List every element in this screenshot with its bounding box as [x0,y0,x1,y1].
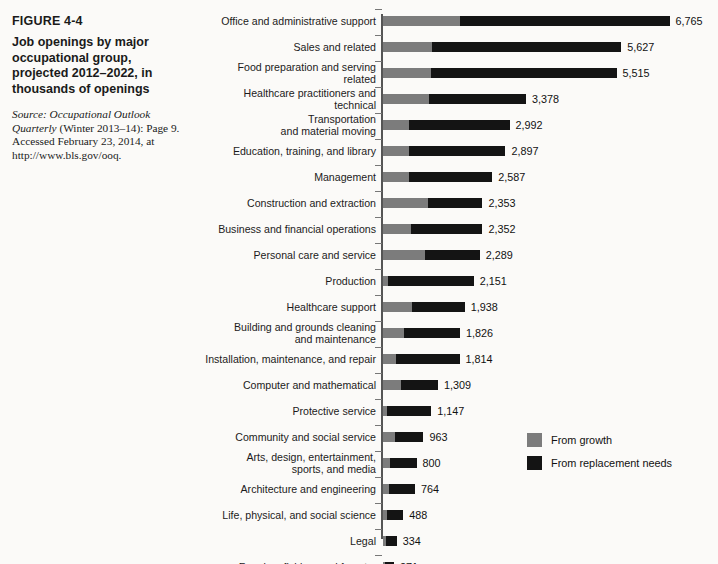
bar-segment-replacement[interactable] [431,68,617,78]
stacked-bar[interactable]: 2,289 [383,250,513,260]
bar-segment-replacement[interactable] [395,432,423,442]
stacked-bar[interactable]: 2,897 [383,146,539,156]
category-label-line: Legal [190,535,376,547]
bar-value-label: 5,627 [627,42,654,52]
chart-row: Construction and extraction2,353 [186,190,710,216]
bar-segment-growth[interactable] [383,172,409,182]
bar-segment-growth[interactable] [383,146,409,156]
bar-segment-growth[interactable] [383,354,397,364]
bar-segment-growth[interactable] [383,16,460,26]
chart-row: Architecture and engineering764 [186,476,710,502]
stacked-bar[interactable]: 2,992 [383,120,543,130]
chart-row: Business and financial operations2,352 [186,216,710,242]
axis-tick [375,113,382,114]
bar-value-label: 2,289 [486,250,513,260]
bar-segment-replacement[interactable] [390,458,417,468]
bar-segment-replacement[interactable] [387,406,431,416]
bar-segment-growth[interactable] [383,458,390,468]
bar-segment-replacement[interactable] [409,172,493,182]
stacked-bar[interactable]: 6,765 [383,16,703,26]
bar-segment-replacement[interactable] [411,224,482,234]
category-label: Life, physical, and social science [190,509,376,521]
bar-value-label: 2,352 [488,224,515,234]
bar-segment-growth[interactable] [383,432,396,442]
figure-title: Job openings by major occupational group… [12,35,180,97]
category-label: Installation, maintenance, and repair [190,353,376,365]
bar-segment-replacement[interactable] [460,16,670,26]
category-label-line: sports, and media [190,463,376,475]
legend-label-replacement: From replacement needs [551,457,672,469]
chart-row: Healthcare practitioners andtechnical3,3… [186,86,710,112]
bar-value-label: 2,992 [516,120,543,130]
figure-number: FIGURE 4-4 [12,14,180,28]
stacked-bar[interactable]: 3,378 [383,94,559,104]
axis-tick [375,9,382,10]
bar-segment-growth[interactable] [383,42,432,52]
stacked-bar[interactable]: 5,627 [383,42,655,52]
bar-segment-growth[interactable] [383,120,410,130]
bar-segment-replacement[interactable] [401,380,439,390]
stacked-bar[interactable]: 334 [383,536,421,546]
bar-segment-growth[interactable] [383,484,390,494]
bar-segment-growth[interactable] [383,68,431,78]
axis-tick [375,87,382,88]
bar-segment-replacement[interactable] [428,198,483,208]
stacked-bar[interactable]: 963 [383,432,448,442]
bar-segment-growth[interactable] [383,302,412,312]
bar-segment-replacement[interactable] [387,510,403,520]
stacked-bar[interactable]: 1,147 [383,406,465,416]
category-label: Protective service [190,405,376,417]
stacked-bar[interactable]: 800 [383,458,441,468]
stacked-bar[interactable]: 1,814 [383,354,493,364]
chart-row: Education, training, and library2,897 [186,138,710,164]
bar-segment-growth[interactable] [383,198,428,208]
category-label: Community and social service [190,431,376,443]
bar-segment-growth[interactable] [383,224,412,234]
bar-segment-replacement[interactable] [396,354,459,364]
bar-segment-replacement[interactable] [386,536,397,546]
bar-segment-growth[interactable] [383,328,404,338]
axis-tick [375,477,382,478]
chart-row: Computer and mathematical1,309 [186,372,710,398]
bar-segment-replacement[interactable] [389,484,415,494]
stacked-bar[interactable]: 1,826 [383,328,493,338]
stacked-bar[interactable]: 5,515 [383,68,650,78]
stacked-bar[interactable]: 1,309 [383,380,472,390]
bar-value-label: 2,353 [488,198,515,208]
stacked-bar[interactable]: 2,352 [383,224,516,234]
axis-tick [375,217,382,218]
bar-segment-replacement[interactable] [425,250,480,260]
bar-segment-replacement[interactable] [412,302,465,312]
bar-segment-growth[interactable] [383,94,430,104]
bar-segment-replacement[interactable] [409,146,506,156]
bar-segment-replacement[interactable] [409,120,509,130]
stacked-bar[interactable]: 2,353 [383,198,516,208]
stacked-bar[interactable]: 488 [383,510,428,520]
bar-segment-replacement[interactable] [388,276,474,286]
bar-segment-replacement[interactable] [429,94,526,104]
axis-tick [375,373,382,374]
category-label: Management [190,171,376,183]
category-label-line: Community and social service [190,431,376,443]
axis-tick [375,399,382,400]
bar-segment-growth[interactable] [383,250,425,260]
category-label-line: Food preparation and serving [190,61,376,73]
stacked-bar[interactable]: 2,587 [383,172,526,182]
bar-segment-replacement[interactable] [432,42,622,52]
category-label: Healthcare practitioners andtechnical [190,87,376,112]
stacked-bar[interactable]: 1,938 [383,302,498,312]
figure-source: Source: Occupational Outlook Quarterly (… [12,108,180,162]
bar-value-label: 3,378 [532,94,559,104]
bar-value-label: 488 [409,510,427,520]
category-label: Food preparation and servingrelated [190,61,376,86]
category-label-line: Building and grounds cleaning [190,321,376,333]
axis-tick [375,425,382,426]
stacked-bar[interactable]: 764 [383,484,439,494]
category-label: Architecture and engineering [190,483,376,495]
category-label-line: Architecture and engineering [190,483,376,495]
stacked-bar[interactable]: 2,151 [383,276,507,286]
bar-segment-growth[interactable] [383,380,401,390]
bar-segment-replacement[interactable] [404,328,460,338]
axis-tick [375,243,382,244]
chart-row: Legal334 [186,528,710,554]
